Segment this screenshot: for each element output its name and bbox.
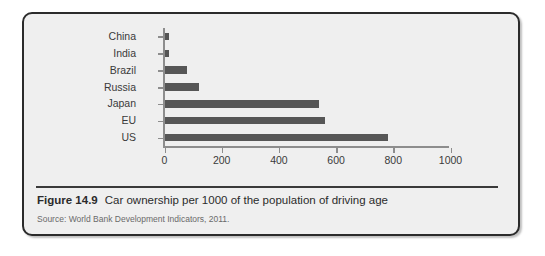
bar-row (165, 28, 169, 45)
bar (165, 50, 169, 58)
category-label: India (64, 48, 141, 58)
x-axis-tick (451, 148, 453, 153)
y-axis-tick (158, 104, 163, 106)
y-axis-tick (158, 70, 163, 72)
y-axis-tick (158, 87, 163, 89)
category-label: Russia (64, 82, 141, 92)
x-axis-tick (222, 148, 224, 153)
bar-row (165, 79, 199, 96)
bar (165, 134, 388, 142)
x-axis-tick-label: 0 (162, 154, 168, 166)
x-axis-tick-label: 800 (385, 154, 403, 166)
category-label: Japan (64, 98, 141, 108)
bar (165, 100, 319, 108)
x-axis-tick (393, 148, 395, 153)
figure-panel: ChinaIndiaBrazilRussiaJapanEUUS 02004006… (22, 12, 520, 236)
figure-number: Figure 14.9 (37, 194, 98, 206)
figure-title: Car ownership per 1000 of the population… (105, 194, 388, 206)
bar-series (165, 28, 451, 146)
y-axis-tick (158, 138, 163, 140)
x-axis-tick-label: 1000 (439, 154, 462, 166)
x-axis-tick-label: 200 (213, 154, 231, 166)
chart-area: ChinaIndiaBrazilRussiaJapanEUUS 02004006… (24, 18, 520, 178)
x-axis-tick-label: 400 (270, 154, 288, 166)
category-label: Brazil (64, 65, 141, 75)
plot-area: ChinaIndiaBrazilRussiaJapanEUUS 02004006… (69, 28, 489, 168)
category-axis-labels: ChinaIndiaBrazilRussiaJapanEUUS (69, 28, 141, 146)
y-axis-tick (158, 36, 163, 38)
x-axis-line (163, 146, 449, 148)
y-axis-tick (158, 53, 163, 55)
caption-divider (36, 186, 498, 188)
category-label: US (64, 132, 141, 142)
bar (165, 66, 188, 74)
bar-row (165, 112, 325, 129)
y-axis-tick (158, 121, 163, 123)
category-label: China (64, 31, 141, 41)
bar-row (165, 129, 388, 146)
figure-caption: Figure 14.9Car ownership per 1000 of the… (37, 194, 388, 206)
x-axis-tick (279, 148, 281, 153)
category-label: EU (64, 115, 141, 125)
figure-source: Source: World Bank Development Indicator… (37, 214, 229, 224)
bar-row (165, 95, 319, 112)
bar (165, 83, 199, 91)
bar (165, 33, 169, 41)
x-axis-tick (165, 148, 167, 153)
bar-row (165, 62, 188, 79)
bar-row (165, 45, 169, 62)
x-axis-tick-label: 600 (327, 154, 345, 166)
x-axis-tick (336, 148, 338, 153)
bar (165, 117, 325, 125)
